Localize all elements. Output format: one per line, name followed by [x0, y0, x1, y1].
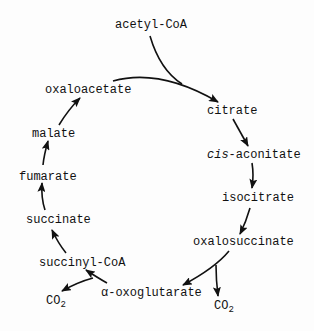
node-fumarate: fumarate — [19, 170, 77, 184]
cycle-arrows — [0, 0, 314, 331]
arrow-malate-oxaloacetate — [59, 98, 80, 125]
co2-subscript: 2 — [60, 300, 65, 310]
node-oxaloacetate: oxaloacetate — [45, 83, 131, 97]
arrow-fumarate-malate — [43, 141, 48, 165]
arrow-succinylcoa-succinate — [52, 230, 66, 253]
arrow-succinate-fumarate — [42, 183, 45, 210]
node-co2-right: CO2 — [214, 299, 234, 317]
arrow-isocitrate-oxalosuccinate — [240, 208, 250, 234]
node-cis-aconitate: cis-aconitate — [207, 148, 301, 162]
arrow-oxoglutarate-succinylcoa — [86, 270, 107, 283]
node-succinyl-coa: succinyl-CoA — [39, 256, 125, 270]
node-citrate: citrate — [207, 104, 257, 118]
arrow-cisaconitate-isocitrate — [252, 163, 253, 188]
node-succinate: succinate — [26, 213, 91, 227]
cis-aconitate-rest: -aconitate — [229, 148, 301, 162]
node-acetyl-coa: acetyl-CoA — [115, 18, 187, 32]
arrow-citrate-cisaconitate — [233, 119, 248, 146]
arrow-co2-left — [62, 278, 93, 291]
co2-subscript: 2 — [228, 305, 233, 315]
node-isocitrate: isocitrate — [222, 191, 294, 205]
arrow-oxalosuccinate-oxoglutarate — [183, 251, 229, 285]
co2-text: CO — [46, 294, 60, 308]
citric-acid-cycle-diagram: acetyl-CoA oxaloacetate citrate malate c… — [0, 0, 314, 331]
arrow-co2-right — [216, 265, 218, 296]
node-alpha-oxoglutarate: α-oxoglutarate — [101, 286, 202, 300]
node-malate: malate — [32, 127, 75, 141]
cis-prefix: cis — [207, 148, 229, 162]
node-oxalosuccinate: oxalosuccinate — [193, 235, 294, 249]
co2-text: CO — [214, 299, 228, 313]
arrow-acetylcoa-citrate — [150, 36, 182, 84]
node-co2-left: CO2 — [46, 294, 66, 312]
